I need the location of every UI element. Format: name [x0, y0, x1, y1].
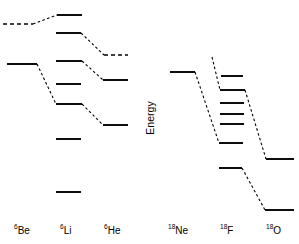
energy-level-diagram: Energy 6Be6Li6He18Ne18F18O	[0, 0, 299, 244]
nuclide-label: 6He	[104, 223, 121, 236]
level-connector-line	[212, 57, 220, 90]
nuclide-label: 6Li	[60, 223, 71, 236]
nuclide-labels-group: 6Be6Li6He18Ne18F18O	[14, 223, 281, 236]
level-connector-line	[245, 90, 266, 159]
nuclide-element-symbol: Ne	[175, 225, 188, 236]
energy-axis-label: Energy	[144, 101, 156, 135]
nuclide-label: 18O	[266, 223, 281, 236]
level-connector-line	[82, 61, 103, 80]
level-connector-line	[195, 72, 219, 143]
level-connector-line	[37, 64, 56, 104]
nuclide-element-symbol: Li	[64, 225, 72, 236]
nuclide-label: 18Ne	[168, 223, 189, 236]
level-connector-line	[81, 33, 104, 55]
level-connector-line	[242, 168, 265, 210]
level-connector-line	[82, 104, 103, 125]
energy-level-figure: Energy 6Be6Li6He18Ne18F18O	[0, 0, 299, 244]
level-connector-line	[33, 15, 57, 24]
nuclide-label: 6Be	[14, 223, 30, 236]
nuclide-element-symbol: O	[273, 225, 281, 236]
nuclide-label: 18F	[220, 223, 233, 236]
nuclide-element-symbol: F	[227, 225, 233, 236]
energy-axis-label-group: Energy	[144, 101, 156, 135]
nuclide-element-symbol: He	[108, 225, 121, 236]
nuclide-element-symbol: Be	[18, 225, 31, 236]
